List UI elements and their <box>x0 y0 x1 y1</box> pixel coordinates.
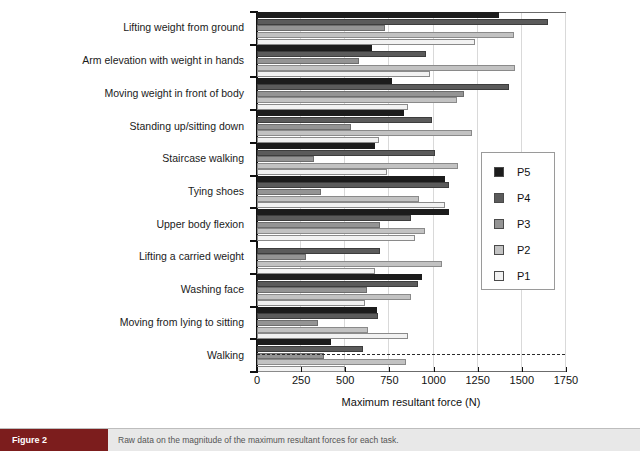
y-axis-tick <box>250 11 257 13</box>
bar-p3 <box>257 222 380 228</box>
x-tick-label: 1250 <box>455 374 501 386</box>
legend-swatch-icon <box>494 193 504 203</box>
x-tick-label: 500 <box>322 374 368 386</box>
category-label: Lifting a carried weight <box>0 251 244 262</box>
legend-label: P1 <box>517 270 530 282</box>
bar-p5 <box>257 143 375 149</box>
bar-p3 <box>257 124 351 130</box>
bar-p3 <box>257 156 314 162</box>
bar-p4 <box>257 346 363 352</box>
bar-p2 <box>257 359 406 365</box>
x-tick-mark <box>566 367 567 372</box>
figure-caption-tag-text: Figure 2 <box>0 429 108 451</box>
legend: P5P4P3P2P1 <box>481 152 555 290</box>
x-tick-label: 1500 <box>499 374 545 386</box>
bar-p3 <box>257 254 306 260</box>
y-axis-tick <box>250 142 257 144</box>
category-label: Staircase walking <box>0 153 244 164</box>
bar-p5 <box>257 209 449 215</box>
x-tick-mark <box>434 367 435 372</box>
bar-p4 <box>257 19 548 25</box>
bar-p4 <box>257 248 380 254</box>
legend-swatch-icon <box>494 245 504 255</box>
legend-entry-p5[interactable]: P5 <box>494 166 530 178</box>
x-tick-label: 0 <box>234 374 280 386</box>
bar-p2 <box>257 196 419 202</box>
bar-p3 <box>257 320 318 326</box>
bar-p2 <box>257 32 514 38</box>
bar-p5 <box>257 78 392 84</box>
bar-p5 <box>257 45 372 51</box>
bar-p3 <box>257 58 359 64</box>
y-axis-tick <box>250 44 257 46</box>
bar-p4 <box>257 215 411 221</box>
y-axis-tick <box>250 175 257 177</box>
category-label: Washing face <box>0 284 244 295</box>
y-axis-tick <box>250 109 257 111</box>
figure-caption-tag: Figure 2 <box>0 429 108 451</box>
bar-p1 <box>257 71 430 77</box>
figure-caption-text: Raw data on the magnitude of the maximum… <box>118 429 636 451</box>
bar-p1 <box>257 333 408 339</box>
legend-swatch-icon <box>494 271 504 281</box>
y-axis-tick <box>250 338 257 340</box>
category-label: Upper body flexion <box>0 219 244 230</box>
legend-entry-p3[interactable]: P3 <box>494 218 530 230</box>
bar-p2 <box>257 130 472 136</box>
legend-swatch-icon <box>494 167 504 177</box>
bar-p2 <box>257 65 515 71</box>
x-tick-mark <box>522 367 523 372</box>
category-label: Walking <box>0 350 244 361</box>
category-label: Tying shoes <box>0 186 244 197</box>
legend-entry-p2[interactable]: P2 <box>494 244 530 256</box>
bar-p4 <box>257 313 378 319</box>
bar-p5 <box>257 176 445 182</box>
bar-p4 <box>257 51 426 57</box>
legend-swatch-icon <box>494 219 504 229</box>
category-label: Lifting weight from ground <box>0 22 244 33</box>
bar-p3 <box>257 287 367 293</box>
y-axis-tick <box>250 306 257 308</box>
bar-p3 <box>257 189 321 195</box>
bar-p5 <box>257 339 331 345</box>
bar-p1 <box>257 202 445 208</box>
bar-p2 <box>257 228 425 234</box>
bar-p1 <box>257 235 415 241</box>
bar-p1 <box>257 104 408 110</box>
x-tick-label: 1750 <box>543 374 589 386</box>
legend-label: P4 <box>517 192 530 204</box>
category-axis: Lifting weight from groundArm elevation … <box>0 12 250 372</box>
bar-p4 <box>257 84 509 90</box>
x-tick-mark <box>389 367 390 372</box>
y-axis-tick <box>250 371 257 373</box>
legend-label: P5 <box>517 166 530 178</box>
bar-p3 <box>257 25 385 31</box>
y-axis-tick <box>250 273 257 275</box>
bar-p4 <box>257 281 418 287</box>
bar-p4 <box>257 182 449 188</box>
x-tick-mark <box>301 367 302 372</box>
x-axis-ticks: 02505007501000125015001750 <box>0 374 640 390</box>
y-axis-tick <box>250 76 257 78</box>
bar-p2 <box>257 97 457 103</box>
category-label: Moving from lying to sitting <box>0 317 244 328</box>
bar-p5 <box>257 12 499 18</box>
x-tick-label: 1000 <box>411 374 457 386</box>
category-label: Arm elevation with weight in hands <box>0 55 244 66</box>
dashed-separator-line <box>257 354 565 355</box>
bar-p1 <box>257 300 365 306</box>
x-axis-title: Maximum resultant force (N) <box>256 396 566 408</box>
bar-p2 <box>257 294 411 300</box>
x-tick-label: 750 <box>366 374 412 386</box>
category-label: Moving weight in front of body <box>0 88 244 99</box>
bar-p1 <box>257 137 379 143</box>
y-axis-tick <box>250 240 257 242</box>
legend-label: P3 <box>517 218 530 230</box>
bar-p5 <box>257 307 377 313</box>
legend-entry-p4[interactable]: P4 <box>494 192 530 204</box>
y-axis-tick <box>250 207 257 209</box>
x-tick-mark <box>257 367 258 372</box>
legend-entry-p1[interactable]: P1 <box>494 270 530 282</box>
bar-p1 <box>257 268 375 274</box>
